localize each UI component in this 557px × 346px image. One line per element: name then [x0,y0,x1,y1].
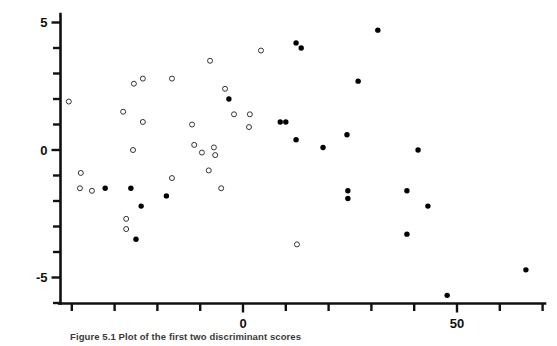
data-point-filled-circle-15 [164,193,169,198]
data-point-open-circle-15 [246,125,251,130]
data-point-filled-circle-5 [293,137,298,142]
data-point-open-circle-6 [140,119,145,124]
data-point-filled-circle-18 [404,188,409,193]
data-point-open-circle-12 [232,112,237,117]
data-point-open-circle-14 [190,122,195,127]
data-point-filled-circle-8 [344,132,349,137]
data-point-open-circle-0 [66,99,71,104]
data-point-filled-circle-14 [133,237,138,242]
data-point-filled-circle-0 [293,40,298,45]
data-point-filled-circle-6 [375,27,380,32]
data-point-open-circle-25 [124,227,129,232]
data-point-open-circle-10 [223,86,228,91]
data-point-open-circle-7 [131,148,136,153]
data-point-filled-circle-1 [299,45,304,50]
data-point-filled-circle-10 [415,147,420,152]
data-point-filled-circle-20 [404,231,409,236]
ticks-group [52,23,543,313]
data-point-open-circle-26 [294,242,299,247]
data-point-filled-circle-21 [523,267,528,272]
x-tick-label-0: 0 [239,316,246,331]
data-point-open-circle-9 [208,58,213,63]
y-tick-label-5: 5 [40,15,47,30]
data-point-filled-circle-19 [425,203,430,208]
y-tick-label-0: 0 [40,143,47,158]
data-point-filled-circle-4 [283,119,288,124]
axes-group [59,14,545,304]
data-point-open-circle-24 [124,216,129,221]
data-point-filled-circle-7 [355,78,360,83]
data-point-filled-circle-3 [278,119,283,124]
scatter-plot-canvas: -505050 [0,0,557,346]
data-point-filled-circle-16 [345,188,350,193]
data-point-filled-circle-9 [320,145,325,150]
data-point-open-circle-20 [89,188,94,193]
data-point-open-circle-23 [219,186,224,191]
data-point-open-circle-5 [121,109,126,114]
data-point-open-circle-8 [169,176,174,181]
data-point-filled-circle-12 [128,186,133,191]
tick-labels-group: -505050 [36,15,464,330]
data-point-open-circle-11 [258,48,263,53]
data-point-open-circle-22 [206,168,211,173]
data-point-open-circle-13 [247,112,252,117]
data-point-filled-circle-22 [444,293,449,298]
data-point-open-circle-2 [131,81,136,86]
data-point-open-circle-17 [199,150,204,155]
data-point-open-circle-1 [77,186,82,191]
y-tick-label--5: -5 [36,270,48,285]
data-point-open-circle-19 [78,170,83,175]
data-point-filled-circle-13 [138,203,143,208]
figure-caption: Figure 5.1 Plot of the first two discrim… [70,331,301,342]
scatter-plot-figure: -505050 Figure 5.1 Plot of the first two… [0,0,557,346]
data-point-filled-circle-11 [102,186,107,191]
data-point-open-circle-18 [213,153,218,158]
data-point-filled-circle-2 [226,96,231,101]
data-point-filled-circle-17 [345,196,350,201]
x-tick-label-50: 50 [450,316,464,331]
data-point-open-circle-3 [140,76,145,81]
data-points-group [66,27,528,298]
data-point-open-circle-16 [192,142,197,147]
data-point-open-circle-4 [169,76,174,81]
data-point-open-circle-21 [211,145,216,150]
